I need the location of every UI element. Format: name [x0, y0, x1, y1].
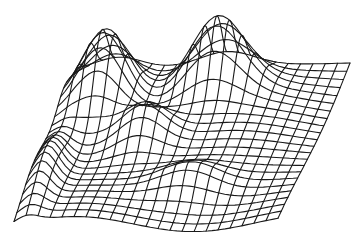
wireframe-mesh	[0, 0, 356, 232]
wireframe-surface-figure	[0, 0, 356, 232]
mesh-line	[206, 62, 276, 231]
mesh-line	[14, 215, 278, 232]
mesh-line	[58, 71, 328, 119]
mesh-line	[61, 48, 331, 111]
mesh-line	[17, 205, 281, 225]
mesh-line	[29, 161, 295, 188]
mesh-line	[98, 65, 165, 218]
mesh-line	[38, 43, 103, 216]
